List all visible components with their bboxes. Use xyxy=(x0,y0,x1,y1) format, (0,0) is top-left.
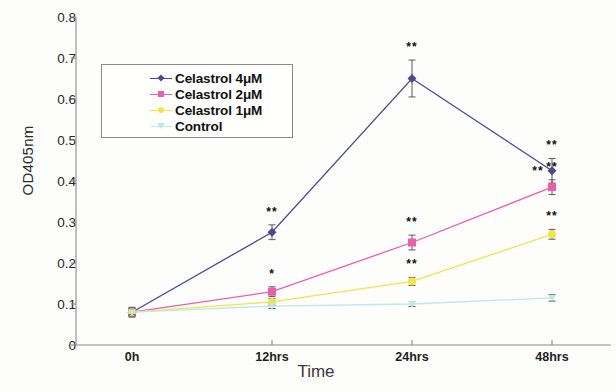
chart-screenshot: OD405nm 0.8 0.7 0.6 0.5 0.4 0.3 0.2 0.1 … xyxy=(0,0,616,392)
legend-item-celastrol-2um: Celastrol 2μM xyxy=(102,86,292,102)
series-line xyxy=(132,187,552,312)
data-point-marker xyxy=(408,239,416,247)
data-point-marker xyxy=(548,183,556,191)
plot-area xyxy=(0,0,616,392)
significance-marker: ** xyxy=(546,209,557,223)
significance-marker: ** xyxy=(406,40,417,54)
plot-svg xyxy=(0,0,616,392)
significance-marker: ** xyxy=(546,160,557,174)
significance-marker: ** xyxy=(406,257,417,271)
legend-label: Control xyxy=(175,119,222,134)
legend-item-control: Control xyxy=(102,118,292,134)
legend-item-celastrol-4um: Celastrol 4μM xyxy=(102,70,292,86)
significance-marker: ** xyxy=(532,164,543,178)
significance-marker: ** xyxy=(266,205,277,219)
legend-item-celastrol-1um: Celastrol 1μM xyxy=(102,102,292,118)
data-point-marker xyxy=(548,230,556,238)
significance-marker: ** xyxy=(546,138,557,152)
legend-marker-icon xyxy=(150,73,172,84)
legend-label: Celastrol 4μM xyxy=(175,71,262,86)
legend-marker-icon xyxy=(150,121,172,132)
legend-marker-icon xyxy=(150,105,172,116)
legend-label: Celastrol 2μM xyxy=(175,87,262,102)
series-line xyxy=(132,298,552,312)
significance-marker: ** xyxy=(406,215,417,229)
chart-legend: Celastrol 4μM Celastrol 2μM Celastrol 1μ… xyxy=(101,64,293,138)
data-point-marker xyxy=(408,277,416,285)
legend-marker-icon xyxy=(150,89,172,100)
data-point-marker xyxy=(268,288,276,296)
legend-label: Celastrol 1μM xyxy=(175,103,262,118)
significance-marker: * xyxy=(269,267,275,281)
